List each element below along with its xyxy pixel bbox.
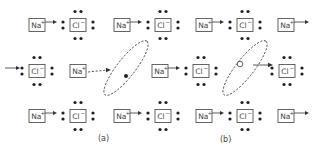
electron-dot bbox=[184, 66, 187, 69]
arrowhead-icon bbox=[138, 20, 142, 24]
chloride-ion: Cl− bbox=[5, 56, 54, 86]
electron-dot bbox=[73, 128, 76, 131]
ion-charge: + bbox=[126, 19, 131, 25]
electron-dot bbox=[91, 117, 94, 120]
electron-dot bbox=[176, 117, 179, 120]
ion-symbol: Cl bbox=[195, 67, 202, 76]
ion-charge: + bbox=[164, 65, 169, 71]
ion-symbol: Cl bbox=[239, 112, 246, 121]
ion-charge: − bbox=[204, 65, 209, 71]
electron-dot bbox=[32, 83, 35, 86]
electron-dot bbox=[79, 128, 82, 131]
arrowhead-icon bbox=[106, 68, 111, 72]
arrowhead-icon bbox=[305, 20, 309, 24]
electron-dot bbox=[61, 117, 64, 120]
electron-dot bbox=[288, 83, 291, 86]
electron-dot bbox=[79, 10, 82, 13]
panel-caption-b: (b) bbox=[220, 135, 231, 144]
electron-dot bbox=[38, 83, 41, 86]
ion-charge: + bbox=[290, 19, 295, 25]
chloride-ion: Cl− bbox=[270, 56, 303, 86]
ion-charge: − bbox=[81, 110, 86, 116]
electron-dot bbox=[196, 56, 199, 59]
sodium-ion: Na+ bbox=[196, 110, 224, 123]
chloride-ion: Cl− bbox=[61, 10, 94, 40]
electron-dot bbox=[240, 128, 243, 131]
electron-dot bbox=[38, 56, 41, 59]
electron-dot bbox=[91, 20, 94, 23]
electron-dot bbox=[300, 66, 303, 69]
electron-dot bbox=[61, 111, 64, 114]
ion-charge: + bbox=[126, 110, 131, 116]
ion-symbol: Cl bbox=[72, 112, 79, 121]
ion-charge: − bbox=[81, 19, 86, 25]
ion-charge: − bbox=[248, 19, 253, 25]
ion-symbol: Cl bbox=[157, 21, 164, 30]
electron-dot bbox=[164, 128, 167, 131]
electron-cloud-ellipse-a bbox=[88, 36, 154, 101]
electron-dot bbox=[176, 26, 179, 29]
arrowhead-icon bbox=[138, 111, 142, 115]
arrowhead-icon bbox=[220, 111, 224, 115]
electron-cloud-ellipse-b bbox=[217, 36, 273, 101]
ion-charge: + bbox=[208, 19, 213, 25]
chloride-ion: Cl− bbox=[146, 10, 179, 40]
electron-dot bbox=[246, 10, 249, 13]
ion-symbol: Cl bbox=[72, 21, 79, 30]
electron-dot bbox=[228, 111, 231, 114]
electron-dot bbox=[196, 83, 199, 86]
ion-charge: + bbox=[41, 19, 46, 25]
chloride-ion: Cl− bbox=[184, 56, 217, 86]
ion-symbol: Cl bbox=[281, 67, 288, 76]
ion-charge: + bbox=[82, 65, 87, 71]
sodium-ion: Na+ bbox=[29, 110, 57, 123]
electron-dot bbox=[288, 56, 291, 59]
electron-dot bbox=[282, 83, 285, 86]
electron-dot bbox=[146, 111, 149, 114]
electron-dot bbox=[164, 101, 167, 104]
electron-dot bbox=[158, 37, 161, 40]
arrowhead-icon bbox=[305, 111, 309, 115]
sodium-ion: Na+ bbox=[29, 19, 57, 32]
electron-dot bbox=[270, 66, 273, 69]
chloride-ion: Cl− bbox=[146, 101, 179, 131]
electron-dot bbox=[282, 56, 285, 59]
electron-dot bbox=[176, 111, 179, 114]
ion-charge: − bbox=[166, 110, 171, 116]
electron-dot bbox=[202, 83, 205, 86]
ion-symbol: Cl bbox=[239, 21, 246, 30]
electron-dot bbox=[228, 20, 231, 23]
electron-dot bbox=[164, 37, 167, 40]
electron-dot bbox=[202, 56, 205, 59]
ion-symbol: Cl bbox=[157, 112, 164, 121]
electron-dot bbox=[73, 101, 76, 104]
chloride-ion: Cl− bbox=[61, 101, 94, 131]
electron-dot bbox=[240, 101, 243, 104]
nacl-lattice-diagram: Na+Cl−Na+Cl−Na+Cl−Na+Cl−Na+Na+Cl−Cl−Na+C… bbox=[0, 0, 319, 152]
electron-dot bbox=[258, 117, 261, 120]
ion-charge: − bbox=[290, 65, 295, 71]
electron-dot bbox=[91, 111, 94, 114]
electron-dot bbox=[258, 26, 261, 29]
ion-symbol: Cl bbox=[31, 67, 38, 76]
electron-dot bbox=[214, 72, 217, 75]
sodium-ion: Na+ bbox=[114, 19, 142, 32]
electron-dot bbox=[158, 101, 161, 104]
arrowhead-icon bbox=[53, 111, 57, 115]
ion-charge: − bbox=[40, 65, 45, 71]
electron-dot bbox=[79, 101, 82, 104]
electron-dot bbox=[32, 56, 35, 59]
electron-dot bbox=[20, 72, 23, 75]
electron-dot bbox=[240, 37, 243, 40]
sodium-ion: Na+ bbox=[70, 65, 87, 78]
arrowhead-icon bbox=[53, 20, 57, 24]
electron-dot bbox=[246, 37, 249, 40]
ion-charge: + bbox=[208, 110, 213, 116]
sodium-ion: Na+ bbox=[114, 110, 142, 123]
electron-dot bbox=[91, 26, 94, 29]
electron-dot bbox=[20, 66, 23, 69]
electron-dot bbox=[79, 37, 82, 40]
electron-dot bbox=[50, 66, 53, 69]
nucleus-dot-filled bbox=[124, 74, 128, 78]
electron-dot bbox=[258, 20, 261, 23]
